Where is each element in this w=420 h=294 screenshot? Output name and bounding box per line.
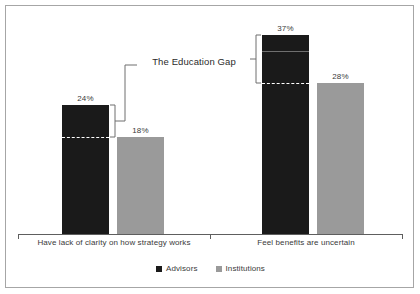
bar-institutions-clarity[interactable] bbox=[117, 137, 164, 234]
legend-swatch-institutions bbox=[216, 266, 222, 272]
chart-legend: Advisors Institutions bbox=[6, 264, 415, 273]
legend-label-advisors: Advisors bbox=[166, 264, 197, 273]
bar-advisors-benefits[interactable] bbox=[262, 35, 309, 234]
value-label-institutions-benefits: 28% bbox=[317, 72, 364, 81]
bracket-right bbox=[256, 35, 261, 83]
category-label-benefits: Feel benefits are uncertain bbox=[210, 238, 402, 247]
value-label-advisors-benefits: 37% bbox=[262, 24, 309, 33]
bracket-left bbox=[110, 105, 115, 137]
gap-dash-right bbox=[262, 83, 309, 84]
category-label-clarity: Have lack of clarity on how strategy wor… bbox=[18, 238, 210, 247]
legend-item-institutions[interactable]: Institutions bbox=[216, 264, 265, 273]
bar-advisors-clarity[interactable] bbox=[62, 105, 109, 234]
legend-item-advisors[interactable]: Advisors bbox=[156, 264, 197, 273]
axis-tick-end bbox=[402, 234, 403, 239]
bar-institutions-benefits[interactable] bbox=[317, 83, 364, 234]
education-gap-label: The Education Gap bbox=[140, 56, 248, 67]
inner-rule-right bbox=[262, 51, 309, 52]
legend-label-institutions: Institutions bbox=[226, 264, 265, 273]
plot-area: 24% 18% 37% 28% The Educati bbox=[6, 6, 415, 289]
value-label-advisors-clarity: 24% bbox=[62, 94, 109, 103]
value-label-institutions-clarity: 18% bbox=[117, 126, 164, 135]
gap-dash-left bbox=[62, 137, 109, 138]
legend-swatch-advisors bbox=[156, 266, 162, 272]
chart-frame: 24% 18% 37% 28% The Educati bbox=[5, 5, 414, 288]
leader-line-left bbox=[115, 65, 137, 121]
